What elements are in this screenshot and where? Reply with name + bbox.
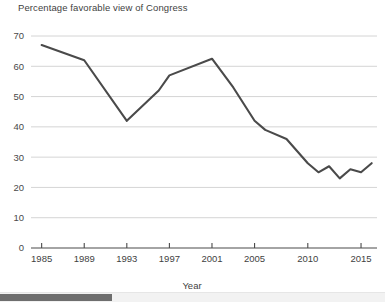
y-axis-tick-label: 70 (13, 30, 24, 41)
y-axis-tick-label: 10 (13, 212, 24, 223)
data-series-line (42, 45, 372, 178)
horizontal-scrollbar-thumb[interactable] (0, 294, 112, 301)
gridlines-group (31, 36, 377, 218)
x-axis-tick-label: 2015 (350, 253, 371, 264)
x-axis-tick-label: 1993 (116, 253, 137, 264)
y-axis-tick-labels: 010203040506070 (13, 30, 24, 253)
chart-plot-area: 010203040506070 198519891993199720012005… (0, 0, 385, 302)
x-axis-tick-label: 1985 (31, 253, 52, 264)
x-axis-title: Year (182, 280, 201, 291)
chart-container: Percentage favorable view of Congress 01… (0, 0, 385, 302)
y-axis-tick-label: 0 (19, 242, 24, 253)
y-axis-tick-label: 60 (13, 61, 24, 72)
x-axis-tick-label: 2001 (201, 253, 222, 264)
x-axis-tick-label: 2005 (244, 253, 265, 264)
y-axis-tick-label: 50 (13, 91, 24, 102)
x-axis-tick-labels: 19851989199319972001200520102015 (31, 253, 372, 264)
y-axis-tick-label: 40 (13, 121, 24, 132)
horizontal-scrollbar[interactable] (0, 292, 385, 302)
x-axis-tickmarks (42, 243, 361, 248)
x-axis-tick-label: 1997 (159, 253, 180, 264)
x-axis-tick-label: 2010 (297, 253, 318, 264)
y-axis-tick-label: 30 (13, 152, 24, 163)
y-axis-tick-label: 20 (13, 182, 24, 193)
x-axis-tick-label: 1989 (74, 253, 95, 264)
